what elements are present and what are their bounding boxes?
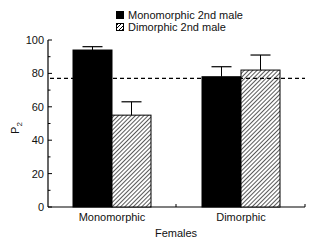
y-tick-label: 60 [32,101,44,113]
x-category-label: Dimorphic [216,211,266,223]
y-axis: 020406080100 [26,34,52,213]
bar-dimorphic-monomorphic-male [202,77,241,207]
x-axis-title: Females [155,227,198,239]
x-category-label: Monomorphic [79,211,146,223]
y-tick-label: 80 [32,67,44,79]
y-axis-title: P2 [9,122,24,134]
bar-monomorphic-monomorphic-male [73,50,112,207]
bar-monomorphic-dimorphic-male [112,115,151,207]
bar-chart: 020406080100 MonomorphicDimorphicFemales… [0,0,321,246]
y-tick-label: 20 [32,168,44,180]
bar-dimorphic-dimorphic-male [241,70,280,207]
bars [73,47,280,207]
y-tick-label: 40 [32,134,44,146]
y-tick-label: 0 [38,201,44,213]
y-tick-label: 100 [26,34,44,46]
